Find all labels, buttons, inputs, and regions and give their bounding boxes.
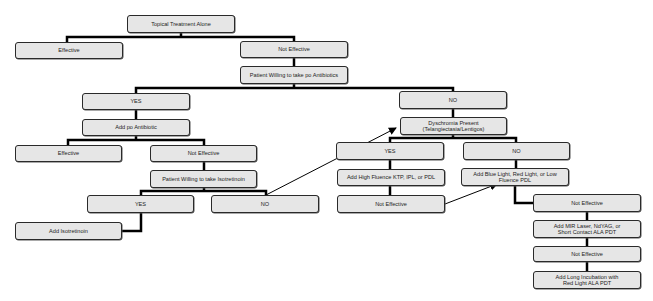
node-add-isotretinoin: Add Isotretinoin — [15, 222, 122, 240]
node-add-long-incubation: Add Long Incubation with Red Light ALA P… — [533, 271, 641, 289]
node-yes-dyschromia: YES — [336, 142, 444, 160]
node-add-po-antibiotic: Add po Antibiotic — [82, 119, 190, 136]
node-no-antibiotics: NO — [399, 91, 507, 109]
flowchart-canvas: Topical Treatment Alone Effective Not Ef… — [0, 0, 653, 301]
node-not-effective-3: Not Effective — [337, 195, 445, 213]
node-yes-isotretinoin: YES — [87, 195, 194, 213]
node-willing-isotretinoin: Patient Willing to take Isotretinoin — [150, 170, 257, 188]
node-no-isotretinoin: NO — [211, 195, 319, 213]
node-add-mir-laser: Add MIR Laser, NdYAG, or Short Contact A… — [533, 220, 641, 238]
node-effective-2: Effective — [15, 145, 122, 162]
node-not-effective-5: Not Effective — [533, 246, 641, 262]
node-no-dyschromia: NO — [463, 142, 570, 160]
node-dyschromia-present: Dyschromia Present (Telangiectasia/Lenti… — [400, 117, 507, 135]
node-not-effective-2: Not Effective — [150, 145, 257, 162]
node-willing-antibiotics: Patient Willing to take po Antibiotics — [240, 66, 348, 84]
node-add-blue-light: Add Blue Light, Red Light, or Low Fluenc… — [461, 168, 569, 186]
node-topical-treatment-alone: Topical Treatment Alone — [127, 15, 235, 33]
node-yes-antibiotics: YES — [82, 93, 190, 110]
node-not-effective-4: Not Effective — [533, 194, 641, 212]
node-add-high-fluence: Add High Fluence KTP, IPL, or PDL — [337, 169, 445, 186]
node-effective-1: Effective — [15, 42, 123, 59]
node-not-effective-1: Not Effective — [240, 41, 348, 58]
